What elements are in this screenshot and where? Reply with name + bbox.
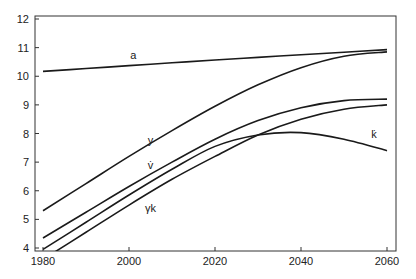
series-line-a [43,50,387,72]
series-line-y [43,52,387,211]
series-label: y [148,134,154,146]
series-label: γk [145,202,157,214]
series-label: k̇ [371,128,377,140]
series-label: a [130,49,137,61]
y-tick-label: 4 [23,242,29,254]
x-tick-label: 2060 [375,255,399,267]
y-tick-label: 10 [17,70,29,82]
x-tick-label: 2040 [289,255,313,267]
y-tick-label: 8 [23,128,29,140]
y-tick-label: 9 [23,99,29,111]
series-labels: ayv̇k̇γk [130,49,377,214]
x-tick-label: 2020 [203,255,227,267]
series-lines [43,50,387,260]
x-tick-label: 1980 [31,255,55,267]
line-chart: 456789101112 19802000202020402060 ayv̇k̇… [0,0,416,279]
x-axis: 19802000202020402060 [31,247,399,267]
y-tick-label: 5 [23,213,29,225]
series-line-gamma-k [43,105,387,260]
series-line-k-dot [43,132,387,249]
y-tick-label: 11 [18,42,29,54]
y-tick-label: 7 [23,156,29,168]
y-tick-label: 6 [23,185,29,197]
plot-frame [35,16,396,251]
x-tick-label: 2000 [117,255,141,267]
y-tick-label: 12 [17,13,29,25]
y-axis: 456789101112 [17,13,39,254]
series-label: v̇ [148,159,154,171]
